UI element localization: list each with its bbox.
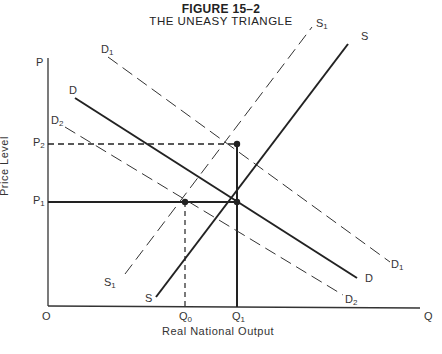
q0-sub: 0 [188,315,192,324]
q0-letter: Q [179,310,188,322]
equilibrium-point-p1-q0 [182,199,188,205]
x-axis [48,306,420,308]
d1-sub: 1 [109,48,113,57]
s1-sub: 1 [111,281,115,290]
d-curve-label-top: D [69,84,77,96]
d2-curve-label-bottom: D2 [345,293,357,307]
x-axis-title: Real National Output [162,325,274,337]
d2-letter: D [345,293,353,305]
q1-label: Q1 [232,310,245,324]
p2-sub: 2 [40,141,44,150]
p1-sub: 1 [40,199,44,208]
curve-d1 [108,57,390,262]
d2-letter: D [51,114,59,126]
d1-curve-label-top: D1 [101,43,113,57]
curve-d2 [65,127,343,295]
d2-sub: 2 [353,298,357,307]
s1-curve-label-top: S1 [316,17,328,31]
curve-s [156,44,348,297]
s-curve-label-bottom: S [145,292,152,304]
q1-sub: 1 [241,315,245,324]
equilibrium-point-p1-q1 [234,199,240,205]
d-curve-label-bottom: D [365,272,373,284]
curve-d [75,98,357,278]
q0-label: Q0 [179,310,192,324]
curve-s1 [125,27,312,274]
origin-label: O [42,310,51,322]
d1-letter: D [101,43,109,55]
d1-curve-label-bottom: D1 [391,258,403,272]
s1-curve-label-bottom: S1 [104,276,116,290]
x-axis-letter: Q [424,310,433,322]
p1-label: P1 [33,194,45,208]
q1-letter: Q [232,310,241,322]
p2-label: P2 [33,136,45,150]
s-curve-label-top: S [361,30,368,42]
d1-letter: D [391,258,399,270]
equilibrium-point-p2-q1 [234,141,240,147]
s1-sub: 1 [323,22,327,31]
d1-sub: 1 [399,263,403,272]
y-axis-letter: P [36,56,43,68]
chart-canvas [0,0,442,354]
d2-sub: 2 [59,119,63,128]
d2-curve-label-top: D2 [51,114,63,128]
y-axis-title: Price Level [0,136,10,196]
